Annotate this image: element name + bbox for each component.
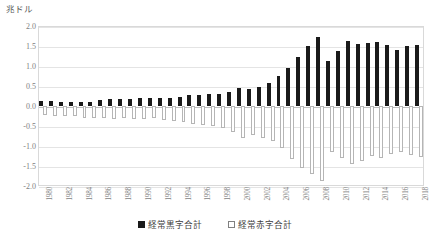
bar-group bbox=[315, 26, 325, 186]
bar-deficit bbox=[320, 106, 324, 181]
bar-group bbox=[246, 26, 256, 186]
y-tick-label: -2.0 bbox=[2, 182, 36, 191]
bar-group bbox=[305, 26, 315, 186]
bar-group bbox=[127, 26, 137, 186]
bar-group bbox=[226, 26, 236, 186]
bar-surplus bbox=[366, 43, 370, 106]
bar-surplus bbox=[148, 98, 152, 106]
legend-swatch-deficit-icon bbox=[228, 221, 235, 228]
bar-deficit bbox=[142, 106, 146, 119]
bar-deficit bbox=[280, 106, 284, 148]
current-account-bar-chart: 兆ドル 2.01.51.00.50.0-0.5-1.0-1.5-2.0 1980… bbox=[0, 0, 430, 236]
bar-group bbox=[157, 26, 167, 186]
bar-group bbox=[404, 26, 414, 186]
bar-surplus bbox=[385, 45, 389, 106]
bar-group bbox=[325, 26, 335, 186]
x-tick-label: 2016 bbox=[402, 187, 410, 201]
bar-deficit bbox=[241, 106, 245, 138]
bar-group bbox=[365, 26, 375, 186]
bar-surplus bbox=[346, 41, 350, 106]
bar-deficit bbox=[409, 106, 413, 155]
bar-group bbox=[147, 26, 157, 186]
bar-deficit bbox=[152, 106, 156, 118]
bar-surplus bbox=[158, 98, 162, 106]
bar-group bbox=[48, 26, 58, 186]
bar-deficit bbox=[389, 106, 393, 154]
bar-deficit bbox=[201, 106, 205, 125]
bar-surplus bbox=[168, 98, 172, 106]
bar-group bbox=[196, 26, 206, 186]
x-tick-label: 2008 bbox=[323, 187, 331, 201]
x-tick-label: 2010 bbox=[343, 187, 351, 201]
bar-group bbox=[345, 26, 355, 186]
bar-deficit bbox=[102, 106, 106, 118]
x-tick-label: 1984 bbox=[86, 187, 94, 201]
bar-surplus bbox=[118, 99, 122, 106]
bar-group bbox=[394, 26, 404, 186]
bar-deficit bbox=[211, 106, 215, 126]
bar-surplus bbox=[336, 51, 340, 106]
x-tick-label: 1988 bbox=[125, 187, 133, 201]
bar-group bbox=[375, 26, 385, 186]
bar-surplus bbox=[187, 95, 191, 106]
bar-surplus bbox=[286, 68, 290, 106]
bar-group bbox=[167, 26, 177, 186]
bar-deficit bbox=[172, 106, 176, 121]
bar-deficit bbox=[221, 106, 225, 128]
bar-group bbox=[355, 26, 365, 186]
bar-surplus bbox=[197, 95, 201, 106]
y-tick-label: 1.0 bbox=[2, 62, 36, 71]
legend-label-surplus: 経常黒字合計 bbox=[148, 218, 202, 230]
legend-item-deficit[interactable]: 経常赤字合計 bbox=[228, 218, 292, 230]
bar-deficit bbox=[251, 106, 255, 135]
y-axis-tick-labels: 2.01.51.00.50.0-0.5-1.0-1.5-2.0 bbox=[0, 26, 36, 186]
bar-group bbox=[216, 26, 226, 186]
x-tick-label: 1998 bbox=[224, 187, 232, 201]
bar-group bbox=[186, 26, 196, 186]
x-tick-label: 1992 bbox=[165, 187, 173, 201]
bar-group bbox=[285, 26, 295, 186]
bar-deficit bbox=[310, 106, 314, 174]
bar-deficit bbox=[92, 106, 96, 118]
bar-deficit bbox=[271, 106, 275, 141]
bar-surplus bbox=[257, 87, 261, 106]
bar-deficit bbox=[419, 106, 423, 157]
x-tick-label: 1994 bbox=[185, 187, 193, 201]
bar-deficit bbox=[162, 106, 166, 120]
legend-item-surplus[interactable]: 経常黒字合計 bbox=[138, 218, 202, 230]
bar-group bbox=[414, 26, 424, 186]
bar-surplus bbox=[375, 42, 379, 106]
bar-group bbox=[384, 26, 394, 186]
bar-surplus bbox=[316, 37, 320, 106]
bar-surplus bbox=[395, 50, 399, 106]
y-tick-label: 1.5 bbox=[2, 42, 36, 51]
bar-deficit bbox=[330, 106, 334, 152]
legend-swatch-surplus-icon bbox=[138, 221, 145, 228]
bar-deficit bbox=[63, 106, 67, 116]
y-tick-label: 0.0 bbox=[2, 102, 36, 111]
x-tick-label: 1980 bbox=[46, 187, 54, 201]
bar-group bbox=[177, 26, 187, 186]
bar-surplus bbox=[108, 99, 112, 106]
bar-deficit bbox=[53, 106, 57, 116]
bar-deficit bbox=[231, 106, 235, 132]
y-tick-label: 0.5 bbox=[2, 82, 36, 91]
x-tick-label: 1986 bbox=[105, 187, 113, 201]
bar-group bbox=[276, 26, 286, 186]
bar-deficit bbox=[112, 106, 116, 119]
bar-group bbox=[117, 26, 127, 186]
bar-deficit bbox=[290, 106, 294, 159]
bar-surplus bbox=[178, 97, 182, 106]
x-tick-label: 1996 bbox=[204, 187, 212, 201]
x-tick-label: 2004 bbox=[283, 187, 291, 201]
x-tick-label: 2002 bbox=[264, 187, 272, 201]
legend-label-deficit: 経常赤字合計 bbox=[238, 218, 292, 230]
bar-group bbox=[295, 26, 305, 186]
bar-group bbox=[68, 26, 78, 186]
bar-surplus bbox=[237, 88, 241, 106]
x-tick-label: 1982 bbox=[66, 187, 74, 201]
bars-layer bbox=[38, 26, 424, 186]
bar-group bbox=[256, 26, 266, 186]
x-axis-tick-labels: 1980198219841986198819901992199419961998… bbox=[38, 187, 424, 215]
bar-group bbox=[87, 26, 97, 186]
